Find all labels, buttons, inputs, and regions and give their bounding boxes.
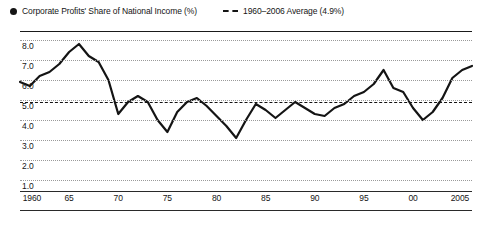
average-reference-line xyxy=(20,102,472,103)
gridline-y-7.0 xyxy=(20,60,472,61)
xtick-label-90: 90 xyxy=(310,194,319,203)
xtick-label-65: 65 xyxy=(64,194,73,203)
xtick-label-80: 80 xyxy=(212,194,221,203)
ytick-label-1.0: 1.0 xyxy=(22,182,34,191)
series-polyline xyxy=(20,44,472,138)
legend-entry-average: 1960–2006 Average (4.9%) xyxy=(223,7,344,16)
gridline-y-5.0 xyxy=(20,100,472,101)
gridline-y-2.0 xyxy=(20,160,472,161)
gridline-y-3.0 xyxy=(20,140,472,141)
gridline-y-6.0 xyxy=(20,80,472,81)
legend-entry-series: Corporate Profits' Share of National Inc… xyxy=(10,7,197,16)
xtick-label-1960: 1960 xyxy=(23,194,42,203)
ytick-label-4.0: 4.0 xyxy=(22,122,34,131)
xtick-label-00: 00 xyxy=(408,194,417,203)
plot-frame: 8.07.06.05.04.03.02.01.0 xyxy=(20,31,472,192)
gridline-y-4.0 xyxy=(20,120,472,121)
chart-legend: Corporate Profits' Share of National Inc… xyxy=(10,4,344,18)
legend-label-average: 1960–2006 Average (4.9%) xyxy=(243,7,344,16)
ytick-label-3.0: 3.0 xyxy=(22,142,34,151)
xtick-label-2005: 2005 xyxy=(451,194,470,203)
xaxis-top-rule xyxy=(20,191,472,192)
chart-figure: Corporate Profits' Share of National Inc… xyxy=(0,0,482,228)
xtick-label-75: 75 xyxy=(163,194,172,203)
xtick-label-70: 70 xyxy=(114,194,123,203)
xaxis-bottom-rule xyxy=(20,210,472,211)
ytick-label-7.0: 7.0 xyxy=(22,62,34,71)
legend-label-series: Corporate Profits' Share of National Inc… xyxy=(22,7,197,16)
ytick-label-6.0: 6.0 xyxy=(22,82,34,91)
legend-dot-marker-icon xyxy=(10,8,17,15)
series-line-chart xyxy=(20,32,472,192)
plot-area xyxy=(20,32,472,192)
xaxis-tick-labels: 196065707580859095002005 xyxy=(20,194,472,208)
xtick-label-95: 95 xyxy=(359,194,368,203)
gridline-y-1.0 xyxy=(20,180,472,181)
ytick-label-8.0: 8.0 xyxy=(22,42,34,51)
ytick-label-5.0: 5.0 xyxy=(22,102,34,111)
ytick-label-2.0: 2.0 xyxy=(22,162,34,171)
gridline-y-8.0 xyxy=(20,40,472,41)
legend-dashed-line-marker-icon xyxy=(223,10,238,12)
xtick-label-85: 85 xyxy=(261,194,270,203)
